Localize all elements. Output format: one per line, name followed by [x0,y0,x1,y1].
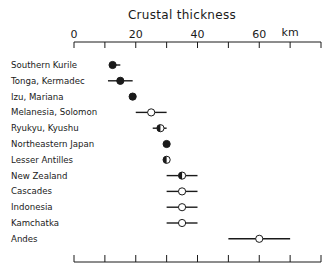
data-row: Ryukyu, Kyushu [11,123,167,133]
data-row: Southern Kurile [11,60,120,70]
open-marker [178,188,185,195]
row-label: Northeastern Japan [11,139,94,149]
open-marker [178,219,185,226]
data-rows: Southern KurileTonga, KermadecIzu, Maria… [10,60,290,244]
filled-marker [109,61,116,68]
row-label: Ryukyu, Kyushu [11,123,79,133]
row-label: Southern Kurile [11,60,77,70]
data-row: Melanesia, Solomon [11,107,167,117]
data-row: Indonesia [11,202,198,212]
data-row: New Zealand [11,171,198,181]
row-label: New Zealand [11,171,67,181]
open-marker [178,204,185,211]
data-row: Cascades [11,186,198,196]
row-label: Tonga, Kermadec [10,76,85,86]
data-row: Kamchatka [11,218,198,228]
data-row: Northeastern Japan [11,139,170,149]
chart-plot: 0204060km Southern KurileTonga, Kermadec… [0,0,334,269]
axis-unit-label: km [282,26,299,39]
row-label: Melanesia, Solomon [11,107,97,117]
bottom-x-axis [74,255,321,262]
open-marker [148,109,155,116]
data-row: Tonga, Kermadec [10,76,133,86]
filled-marker [129,93,136,100]
tick-label: 20 [129,28,143,41]
row-label: Izu, Mariana [11,92,64,102]
tick-label: 40 [191,28,205,41]
top-x-axis: 0204060km [71,26,322,48]
row-label: Andes [11,234,38,244]
tick-label: 60 [252,28,266,41]
row-label: Indonesia [11,202,53,212]
data-row: Izu, Mariana [11,92,136,102]
row-label: Cascades [11,186,52,196]
row-label: Kamchatka [11,218,59,228]
row-label: Lesser Antilles [11,155,74,165]
filled-marker [117,77,124,84]
open-marker [256,235,263,242]
data-row: Lesser Antilles [11,155,170,165]
tick-label: 0 [71,28,78,41]
filled-marker [163,140,170,147]
data-row: Andes [11,234,290,244]
